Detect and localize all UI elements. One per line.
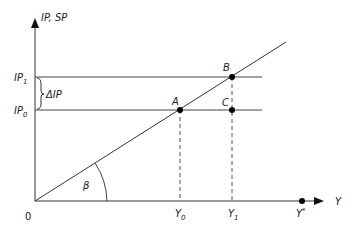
y1-tick-label: Y1 bbox=[228, 208, 239, 222]
angle-arc bbox=[95, 163, 107, 201]
y-axis-label: IP, SP bbox=[41, 12, 68, 23]
ip0-tick-label: IP0 bbox=[14, 105, 28, 119]
ip1-tick-label: IP1 bbox=[14, 72, 27, 86]
point-a bbox=[177, 107, 183, 113]
sp-line bbox=[35, 42, 286, 201]
ystar-tick-label: Y* bbox=[296, 207, 306, 219]
point-a-label: A bbox=[171, 96, 179, 107]
point-c bbox=[229, 107, 235, 113]
y-axis-arrow-icon bbox=[31, 18, 39, 28]
point-b bbox=[229, 74, 235, 80]
point-c-label: C bbox=[222, 97, 229, 108]
delta-ip-label: ΔIP bbox=[45, 89, 63, 100]
origin-label: 0 bbox=[25, 211, 31, 222]
angle-label: β bbox=[82, 180, 90, 191]
x-axis-label: Y bbox=[335, 196, 342, 207]
y0-tick-label: Y0 bbox=[175, 208, 186, 222]
point-b-label: B bbox=[223, 62, 230, 73]
point-ystar bbox=[299, 198, 305, 204]
diagram-canvas: IP, SP Y 0 β ΔIP IP1 IP0 Y0 Y1 Y* A B C bbox=[0, 0, 355, 227]
delta-brace bbox=[37, 78, 44, 109]
x-axis-arrow-icon bbox=[314, 197, 324, 205]
